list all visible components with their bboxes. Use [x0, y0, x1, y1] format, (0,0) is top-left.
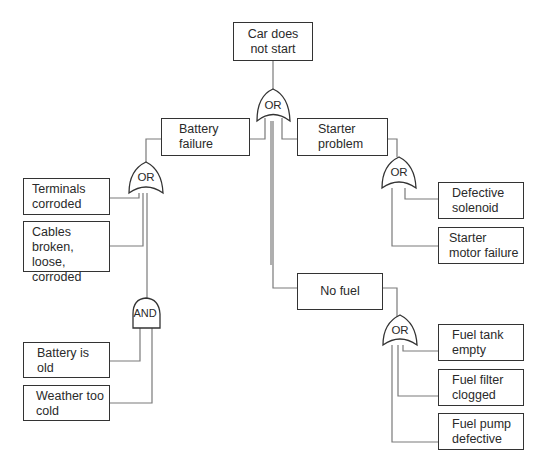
event-label: Defective: [452, 186, 504, 200]
event-label: old: [37, 361, 54, 375]
and-gate-label: AND: [129, 307, 161, 319]
event-label: corroded: [32, 270, 81, 284]
event-label: Starter: [449, 231, 487, 245]
event-cables-broken: Cablesbroken, loose,corroded: [23, 221, 110, 272]
event-defective-solenoid: Defectivesolenoid: [438, 182, 524, 219]
event-label: Fuel tank: [452, 328, 503, 342]
event-fuel-filter-clogged: Fuel filterclogged: [438, 369, 524, 406]
event-label: not start: [250, 42, 295, 56]
event-label: Battery is: [37, 346, 89, 360]
event-label: Starter: [318, 122, 356, 136]
event-battery-failure: Batteryfailure: [161, 118, 250, 156]
event-car-does-not-start: Car doesnot start: [233, 22, 313, 61]
event-terminals-corroded: Terminalscorroded: [23, 178, 110, 215]
event-label: problem: [318, 137, 363, 151]
event-fuel-tank-empty: Fuel tankempty: [438, 324, 524, 361]
event-label: Fuel filter: [452, 373, 503, 387]
event-label: Terminals: [32, 182, 86, 196]
event-label: empty: [452, 343, 486, 357]
event-no-fuel: No fuel: [297, 273, 383, 310]
event-label: failure: [179, 137, 213, 151]
or-gate-fuel-label: OR: [383, 324, 417, 336]
event-fuel-pump-defective: Fuel pumpdefective: [438, 413, 524, 450]
event-label: cold: [36, 404, 59, 418]
event-label: broken, loose,: [32, 240, 74, 269]
event-weather-too-cold: Weather toocold: [23, 385, 110, 421]
event-label: Fuel pump: [452, 417, 511, 431]
event-label: solenoid: [452, 201, 499, 215]
event-label: No fuel: [320, 284, 360, 299]
or-gate-top-label: OR: [256, 99, 290, 111]
event-label: Cables: [32, 225, 71, 239]
event-label: clogged: [452, 388, 496, 402]
event-label: defective: [452, 432, 502, 446]
or-gate-battery-label: OR: [129, 171, 163, 183]
event-label: motor failure: [449, 246, 518, 260]
event-label: corroded: [32, 197, 81, 211]
event-starter-problem: Starterproblem: [297, 118, 388, 156]
event-starter-motor-failure: Startermotor failure: [438, 227, 524, 264]
event-label: Weather too: [36, 389, 104, 403]
event-label: Battery: [179, 122, 219, 136]
event-label: Car does: [248, 27, 299, 41]
event-battery-is-old: Battery isold: [23, 342, 110, 378]
or-gate-starter-label: OR: [382, 166, 416, 178]
